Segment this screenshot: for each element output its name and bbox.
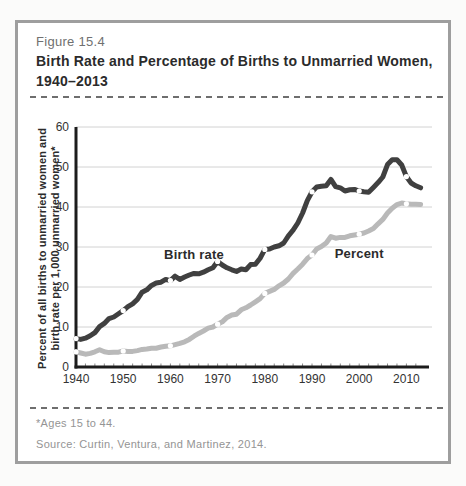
figure-panel: Figure 15.4 Birth Rate and Percentage of…	[15, 20, 451, 464]
top-divider	[30, 96, 444, 98]
x-tick-label: 2000	[346, 372, 373, 386]
figure-title: Birth Rate and Percentage of Births to U…	[36, 52, 442, 92]
figure-title-line1: Birth Rate and Percentage of Births to U…	[36, 52, 442, 72]
series-inline-label: Percent	[335, 246, 385, 261]
percent-marker	[309, 252, 314, 257]
percent-marker	[73, 349, 78, 354]
x-tick-label: 1980	[251, 372, 278, 386]
y-tick-label: 30	[56, 240, 70, 254]
figure-number: Figure 15.4	[36, 34, 105, 49]
series-inline-label: Birth rate	[164, 247, 224, 262]
line-chart: 0102030405060194019501960197019801990200…	[18, 111, 448, 403]
birth-rate-marker	[262, 247, 267, 252]
x-tick-label: 1990	[299, 372, 326, 386]
birth-rate-marker	[168, 278, 173, 283]
x-tick-label: 1960	[157, 372, 184, 386]
y-tick-label: 50	[56, 160, 70, 174]
y-tick-label: 20	[56, 280, 70, 294]
y-tick-label: 10	[56, 320, 70, 334]
percent-marker	[215, 322, 220, 327]
bottom-divider	[30, 407, 444, 409]
x-tick-label: 1940	[63, 372, 90, 386]
figure-title-line2: 1940–2013	[36, 72, 442, 92]
birth-rate-marker	[404, 174, 409, 179]
birth-rate-marker	[309, 189, 314, 194]
y-tick-label: 60	[56, 120, 70, 134]
x-tick-label: 1950	[110, 372, 137, 386]
source-line: Source: Curtin, Ventura, and Martinez, 2…	[36, 438, 267, 450]
birth-rate-marker	[73, 336, 78, 341]
birth-rate-marker	[121, 308, 126, 313]
percent-marker	[121, 348, 126, 353]
percent-line	[76, 203, 421, 354]
percent-marker	[262, 291, 267, 296]
birth-rate-marker	[357, 188, 362, 193]
x-tick-label: 1970	[204, 372, 231, 386]
x-tick-label: 2010	[393, 372, 420, 386]
percent-marker	[404, 201, 409, 206]
percent-marker	[168, 343, 173, 348]
footnote: *Ages 15 to 44.	[36, 417, 116, 429]
y-tick-label: 40	[56, 200, 70, 214]
percent-marker	[357, 232, 362, 237]
